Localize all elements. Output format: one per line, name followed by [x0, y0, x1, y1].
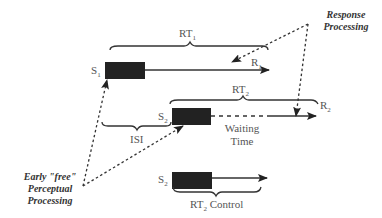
- r2-label: R2: [320, 100, 331, 114]
- rt2-control-label: RT2 Control: [190, 199, 243, 213]
- rt1-label: RT1: [179, 28, 196, 42]
- early-perceptual-processing-annotation: Early "free"PerceptualProcessing: [18, 171, 82, 207]
- perceptual-to-s1-dotted-arrow: [83, 80, 107, 186]
- trial1-group: [105, 42, 269, 79]
- trial2-group: [102, 96, 318, 130]
- response-processing-annotation: ResponseProcessing: [316, 9, 376, 33]
- isi-label: ISI: [130, 134, 143, 145]
- s2-control-label: S2: [158, 174, 168, 188]
- r1-label: R1: [251, 57, 262, 71]
- response-to-r2-dotted-arrow: [296, 24, 308, 116]
- waiting-time-label: WaitingTime: [222, 122, 262, 148]
- rt1-brace: [110, 42, 268, 50]
- s2-label: S2: [158, 111, 168, 125]
- response-to-r1-dotted-arrow: [232, 24, 308, 62]
- control-group: [172, 172, 267, 196]
- s2-stimulus-box: [172, 108, 211, 125]
- rt2-label: RT2: [232, 84, 249, 98]
- s1-label: S1: [91, 65, 101, 79]
- s2-control-stimulus-box: [172, 172, 212, 189]
- s1-stimulus-box: [105, 62, 145, 79]
